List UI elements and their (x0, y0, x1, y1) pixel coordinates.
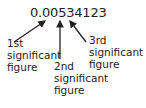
label-third: 3rd significant figure (89, 34, 143, 70)
arrow-third-icon (70, 21, 86, 42)
